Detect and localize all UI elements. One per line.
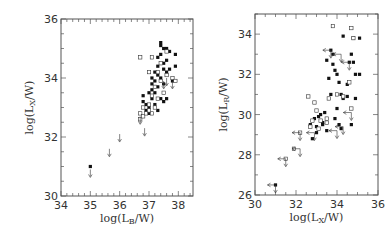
data-point — [352, 61, 355, 64]
data-point — [159, 62, 162, 65]
y-tick-label: 28 — [238, 149, 252, 162]
x-tick-label: 32 — [289, 198, 303, 211]
data-point — [174, 53, 177, 56]
data-point — [150, 94, 153, 97]
data-point — [153, 79, 156, 82]
data-point — [142, 100, 145, 103]
data-point — [341, 95, 344, 98]
data-point — [147, 70, 150, 73]
data-point — [313, 101, 316, 104]
data-point — [354, 97, 357, 100]
y-tick-label: 34 — [44, 72, 58, 85]
data-point — [156, 70, 159, 73]
data-point — [333, 117, 336, 120]
data-point — [162, 91, 165, 94]
data-point — [159, 44, 162, 47]
series-filled — [89, 41, 177, 168]
data-point — [335, 93, 338, 96]
data-point — [325, 117, 328, 120]
data-point — [358, 73, 361, 76]
data-point — [150, 76, 153, 79]
data-point — [174, 79, 177, 82]
data-point — [162, 68, 165, 71]
figure: 343536373830323436log(LB/W)log(LX/W) 303… — [0, 0, 390, 233]
data-point — [321, 123, 324, 126]
y-tick-label: 26 — [238, 189, 252, 202]
data-point — [354, 73, 357, 76]
x-tick-label: 37 — [142, 199, 156, 212]
data-point — [350, 123, 353, 126]
data-point — [325, 121, 328, 124]
data-point — [317, 127, 320, 130]
data-point — [340, 127, 343, 130]
data-point — [162, 100, 165, 103]
data-point — [309, 125, 312, 128]
data-point — [89, 165, 92, 168]
data-point — [147, 103, 150, 106]
series-open — [284, 24, 355, 160]
left-scatter-panel: 343536373830323436log(LB/W)log(LX/W) — [23, 13, 193, 226]
data-point — [142, 94, 145, 97]
data-point — [168, 68, 171, 71]
data-point — [141, 106, 144, 109]
data-point — [315, 109, 318, 112]
data-point — [165, 73, 168, 76]
series-upper-limits — [268, 48, 354, 193]
data-point — [165, 59, 168, 62]
y-tick-label: 32 — [238, 68, 252, 81]
data-point — [153, 106, 156, 109]
data-point — [174, 65, 177, 68]
data-point — [159, 79, 162, 82]
plot-frame — [255, 14, 378, 195]
right-scatter-panel: 303234362628303234log(LX/W)log(LR/W) — [217, 14, 385, 225]
data-point — [331, 24, 334, 27]
data-point — [165, 50, 168, 53]
series-upper-limits — [89, 78, 175, 177]
data-point — [323, 111, 326, 114]
data-point — [147, 109, 150, 112]
data-point — [307, 95, 310, 98]
data-point — [358, 37, 361, 40]
y-tick-label: 32 — [44, 131, 58, 144]
data-point — [319, 113, 322, 116]
x-axis-label: log(LB/W) — [100, 212, 154, 226]
data-point — [315, 131, 318, 134]
plot-frame — [61, 19, 193, 196]
data-point — [350, 53, 353, 56]
data-point — [346, 95, 349, 98]
data-point — [335, 73, 338, 76]
data-point — [139, 56, 142, 59]
data-point — [156, 97, 159, 100]
data-point — [352, 36, 355, 39]
x-tick-label: 38 — [171, 199, 185, 212]
data-point — [337, 81, 340, 84]
data-point — [329, 93, 332, 96]
data-point — [331, 63, 334, 66]
data-point — [159, 53, 162, 56]
y-tick-label: 30 — [238, 109, 252, 122]
data-point — [348, 81, 351, 84]
x-tick-label: 36 — [371, 198, 385, 211]
data-point — [319, 119, 322, 122]
data-point — [350, 107, 353, 110]
y-axis-label: log(LX/W) — [23, 81, 37, 135]
data-point — [327, 97, 330, 100]
data-point — [165, 97, 168, 100]
data-point — [311, 119, 314, 122]
data-point — [159, 41, 162, 44]
data-point — [342, 35, 345, 38]
y-tick-label: 30 — [44, 190, 58, 203]
x-tick-label: 34 — [330, 198, 344, 211]
data-point — [153, 85, 156, 88]
y-tick-label: 36 — [44, 13, 58, 26]
x-axis-label: log(LX/W) — [290, 211, 344, 225]
x-tick-label: 36 — [113, 199, 127, 212]
data-point — [333, 69, 336, 72]
data-point — [156, 56, 159, 59]
data-point — [325, 59, 328, 62]
y-axis-label: log(LR/W) — [217, 77, 231, 131]
data-point — [325, 129, 328, 132]
y-tick-label: 34 — [238, 28, 252, 41]
data-point — [350, 26, 353, 29]
x-tick-label: 35 — [83, 199, 97, 212]
